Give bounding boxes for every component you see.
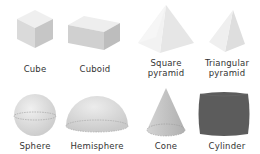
cuboid-shape bbox=[66, 14, 122, 52]
sphere-shape bbox=[12, 92, 58, 138]
square-pyramid-shape bbox=[136, 3, 196, 55]
cylinder-shape bbox=[196, 90, 252, 138]
triangular-pyramid-label-line1: Triangular bbox=[192, 58, 260, 68]
square-pyramid-label: Square pyramid bbox=[131, 58, 201, 78]
triangular-pyramid-label: Triangular pyramid bbox=[192, 58, 260, 78]
hemisphere-label: Hemisphere bbox=[62, 141, 132, 151]
cone-shape bbox=[144, 86, 188, 140]
sphere-label: Sphere bbox=[0, 141, 70, 151]
triangular-pyramid-shape bbox=[207, 8, 247, 54]
triangular-pyramid-label-line2: pyramid bbox=[192, 68, 260, 78]
cuboid-label: Cuboid bbox=[60, 64, 130, 74]
square-pyramid-label-line2: pyramid bbox=[131, 68, 201, 78]
cone-label: Cone bbox=[131, 141, 201, 151]
cylinder-label: Cylinder bbox=[192, 141, 260, 151]
square-pyramid-label-line1: Square bbox=[131, 58, 201, 68]
hemisphere-shape bbox=[64, 94, 130, 136]
cube-shape bbox=[15, 8, 55, 50]
